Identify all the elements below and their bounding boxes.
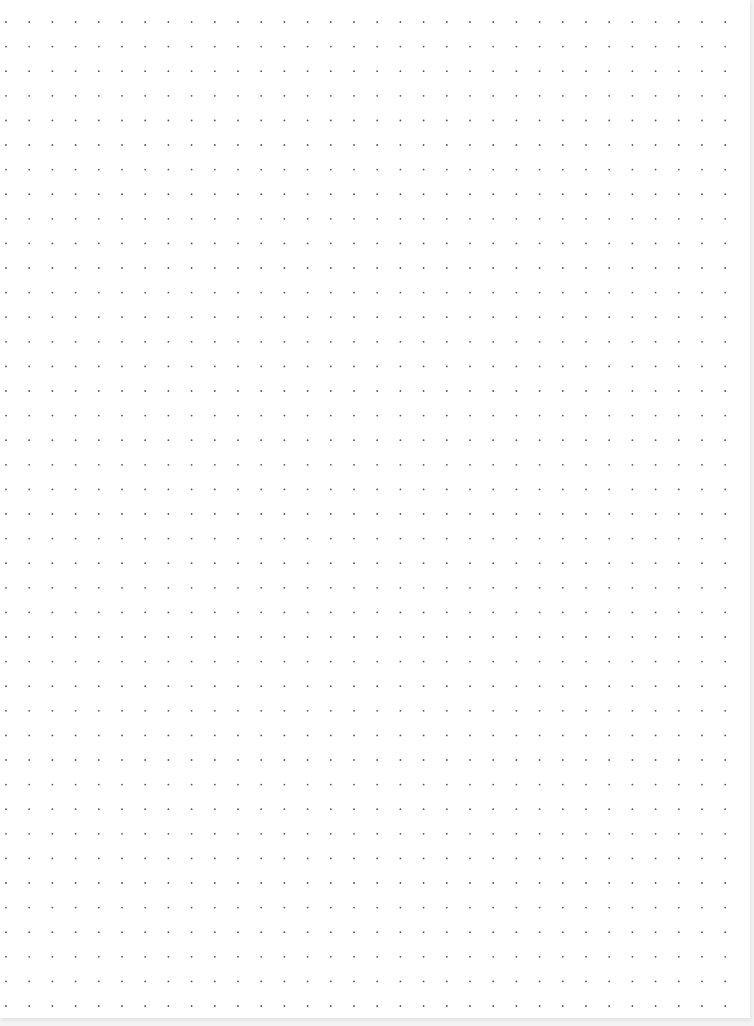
grid-dot xyxy=(191,981,193,983)
grid-dot xyxy=(237,710,239,712)
grid-dot xyxy=(678,784,680,786)
grid-dot xyxy=(75,808,77,810)
grid-dot xyxy=(446,612,448,614)
grid-dot xyxy=(585,808,587,810)
grid-dot xyxy=(655,784,657,786)
grid-dot xyxy=(5,169,7,171)
grid-dot xyxy=(724,46,726,48)
grid-dot xyxy=(307,956,309,958)
grid-dot xyxy=(516,316,518,318)
grid-dot xyxy=(608,439,610,441)
grid-dot xyxy=(75,562,77,564)
grid-dot xyxy=(400,907,402,909)
grid-dot xyxy=(608,169,610,171)
grid-dot xyxy=(121,612,123,614)
grid-dot xyxy=(608,489,610,491)
grid-dot xyxy=(168,21,170,23)
grid-dot xyxy=(191,21,193,23)
grid-dot xyxy=(98,341,100,343)
grid-dot xyxy=(516,981,518,983)
grid-dot xyxy=(284,169,286,171)
grid-dot xyxy=(260,464,262,466)
grid-dot xyxy=(98,636,100,638)
grid-dot xyxy=(75,439,77,441)
grid-dot xyxy=(52,415,54,417)
grid-dot xyxy=(214,513,216,515)
grid-dot xyxy=(423,735,425,737)
grid-dot xyxy=(284,636,286,638)
grid-dot xyxy=(191,735,193,737)
grid-dot xyxy=(376,292,378,294)
grid-dot xyxy=(5,21,7,23)
grid-dot xyxy=(516,907,518,909)
grid-dot xyxy=(376,685,378,687)
grid-dot xyxy=(330,21,332,23)
grid-dot xyxy=(423,710,425,712)
grid-dot xyxy=(144,292,146,294)
grid-dot xyxy=(5,710,7,712)
grid-dot xyxy=(516,489,518,491)
grid-dot xyxy=(214,144,216,146)
grid-dot xyxy=(423,833,425,835)
grid-dot xyxy=(214,858,216,860)
grid-dot xyxy=(678,243,680,245)
grid-dot xyxy=(400,710,402,712)
grid-dot xyxy=(562,366,564,368)
grid-dot xyxy=(52,931,54,933)
grid-dot xyxy=(562,243,564,245)
grid-dot xyxy=(191,587,193,589)
grid-dot xyxy=(75,120,77,122)
grid-dot xyxy=(144,858,146,860)
grid-dot xyxy=(678,95,680,97)
grid-dot xyxy=(330,439,332,441)
grid-dot xyxy=(701,833,703,835)
grid-dot xyxy=(121,833,123,835)
grid-dot xyxy=(492,538,494,540)
grid-dot xyxy=(191,685,193,687)
grid-dot xyxy=(75,243,77,245)
grid-dot xyxy=(376,833,378,835)
grid-dot xyxy=(237,439,239,441)
grid-dot xyxy=(52,808,54,810)
grid-dot xyxy=(376,21,378,23)
grid-dot xyxy=(260,316,262,318)
grid-dot xyxy=(539,685,541,687)
grid-dot xyxy=(608,218,610,220)
grid-dot xyxy=(191,882,193,884)
grid-dot xyxy=(330,1005,332,1007)
grid-dot xyxy=(562,144,564,146)
grid-dot xyxy=(121,956,123,958)
grid-dot xyxy=(307,316,309,318)
grid-dot xyxy=(144,341,146,343)
grid-dot xyxy=(376,784,378,786)
grid-dot xyxy=(423,292,425,294)
grid-dot xyxy=(52,710,54,712)
grid-dot xyxy=(353,587,355,589)
grid-dot xyxy=(655,415,657,417)
grid-dot xyxy=(144,218,146,220)
grid-dot xyxy=(5,907,7,909)
grid-dot xyxy=(632,735,634,737)
grid-dot xyxy=(423,267,425,269)
grid-dot xyxy=(52,612,54,614)
grid-dot xyxy=(724,833,726,835)
grid-dot xyxy=(539,292,541,294)
grid-dot xyxy=(469,784,471,786)
grid-dot xyxy=(585,612,587,614)
grid-dot xyxy=(260,120,262,122)
grid-dot xyxy=(724,1005,726,1007)
grid-dot xyxy=(284,439,286,441)
grid-dot xyxy=(632,341,634,343)
grid-dot xyxy=(214,439,216,441)
grid-dot xyxy=(52,513,54,515)
grid-dot xyxy=(284,292,286,294)
grid-dot xyxy=(585,169,587,171)
grid-dot xyxy=(5,120,7,122)
grid-dot xyxy=(446,267,448,269)
grid-dot xyxy=(562,562,564,564)
grid-dot xyxy=(98,70,100,72)
grid-dot xyxy=(307,267,309,269)
grid-dot xyxy=(168,144,170,146)
grid-dot xyxy=(655,661,657,663)
grid-dot xyxy=(678,562,680,564)
